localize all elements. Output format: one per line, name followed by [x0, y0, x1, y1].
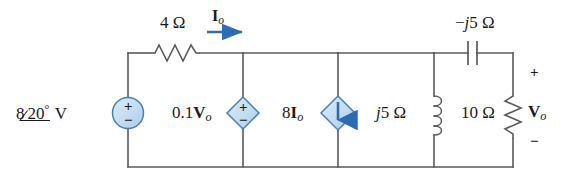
resistor-10-ohm-label: 10 Ω: [461, 104, 495, 121]
inductor-j5-ohm-label: j5 Ω: [376, 104, 406, 121]
resistor-4-ohm-symbol: [155, 45, 200, 61]
source-minus-sign: −: [124, 113, 133, 128]
circuit-diagram-figure: 820° V + − 4 Ω Io 0.1Vo + − 8Io j5 Ω −j5…: [0, 0, 570, 187]
capacitor-minus-j5-ohm-label: −j5 Ω: [455, 14, 495, 31]
dependent-current-source-label: 8Io: [282, 104, 303, 123]
current-io-label: Io: [212, 8, 224, 26]
dependent-voltage-source-minus: −: [239, 113, 248, 128]
resistor-4-ohm-label: 4 Ω: [160, 14, 185, 31]
output-voltage-minus-sign: −: [530, 134, 539, 149]
inductor-j5-symbol: [434, 96, 442, 135]
resistor-10-ohm-symbol: [505, 96, 521, 139]
source-label-8-angle-20-v: 820° V: [16, 103, 67, 122]
capacitor-minus-j5-symbol: [468, 41, 477, 65]
output-voltage-plus-sign: +: [530, 65, 539, 80]
dependent-voltage-source-label: 0.1Vo: [172, 104, 212, 123]
output-voltage-vo-label: Vo: [528, 103, 546, 122]
